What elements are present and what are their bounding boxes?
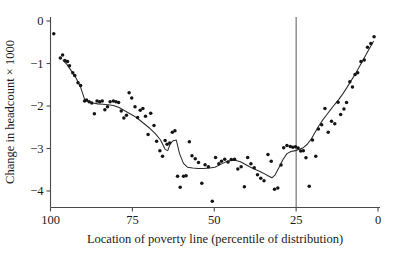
data-point [125,114,129,118]
data-point [176,174,180,178]
data-point [307,185,311,189]
data-point [323,107,327,111]
data-point [302,149,306,153]
data-point [155,140,159,144]
data-point [90,101,94,105]
data-point [326,131,330,135]
data-point [136,116,140,120]
x-axis-tick-labels: 1007550250 [41,213,381,227]
y-tick-label-4: −4 [30,184,44,198]
data-point [285,144,289,148]
y-tick-label-1: −1 [30,57,43,71]
data-point [304,156,308,160]
data-point [158,149,162,153]
data-point [188,140,192,144]
x-tick-label-0: 100 [41,213,60,227]
data-point [133,105,137,109]
data-point [178,185,182,189]
data-point [333,122,337,126]
data-point [141,107,145,111]
x-tick-label-3: 25 [290,213,303,227]
data-point [122,116,126,120]
data-point [59,56,63,60]
data-point [348,80,352,84]
data-point [146,133,150,137]
y-tick-label-0: 0 [37,14,43,28]
data-point [269,160,273,164]
data-point [127,91,131,95]
data-point [279,163,283,167]
data-point [320,123,324,127]
data-point [266,153,270,157]
data-point [317,127,321,131]
data-point [239,165,243,169]
data-point [342,107,346,111]
data-point [246,156,250,160]
data-point [249,162,253,166]
y-tick-label-3: −3 [30,142,43,156]
data-point [73,74,77,78]
data-point [119,109,123,113]
data-point [61,53,64,57]
data-point [52,32,56,36]
scatter-point-group [52,32,376,203]
data-point [339,113,343,117]
data-point [214,156,218,160]
data-point [163,139,167,143]
fitted-trend-line [63,41,373,177]
data-point [336,100,340,104]
data-point [108,100,112,104]
data-point [233,157,237,161]
data-point [207,165,211,169]
data-point [230,158,234,162]
data-point [236,167,240,171]
data-point [363,58,367,62]
data-point [226,160,230,164]
data-point [197,161,201,165]
data-point [190,154,194,158]
data-point [243,185,247,189]
data-point [173,129,177,133]
data-point [68,64,72,68]
data-point [152,124,156,128]
data-point [330,120,334,124]
data-point [211,199,215,203]
x-tick-label-1: 75 [126,213,139,227]
data-point [117,101,121,105]
scatter-plot-svg: 0−1−2−3−4 1007550250 Change in headcount… [0,0,396,253]
data-point [262,179,266,183]
y-axis-ticks [47,21,51,191]
data-point [130,96,134,100]
data-point [149,111,153,115]
data-point [184,174,188,178]
data-point [252,166,256,170]
data-point [168,141,172,145]
data-point [76,81,80,85]
x-tick-label-4: 0 [375,213,381,227]
data-point [366,46,370,50]
x-axis-ticks [51,208,379,212]
data-point [345,101,349,105]
data-point [296,146,300,150]
data-point [100,99,104,103]
data-point [103,108,107,112]
data-point [273,188,277,192]
data-point [217,162,221,166]
data-point [276,186,280,190]
data-point [314,154,318,158]
x-tick-label-2: 50 [208,213,221,227]
data-point [223,157,227,161]
y-axis-title: Change in headcount × 1000 [3,40,17,184]
data-point [372,35,376,39]
data-point [220,160,224,164]
data-point [203,163,207,167]
chart-figure: 0−1−2−3−4 1007550250 Change in headcount… [0,0,396,253]
data-point [256,173,260,177]
data-point [282,146,286,150]
data-point [144,114,148,118]
data-point [369,42,373,46]
data-point [259,177,263,181]
data-point [79,84,83,88]
data-point [194,157,198,161]
data-point [311,138,315,142]
